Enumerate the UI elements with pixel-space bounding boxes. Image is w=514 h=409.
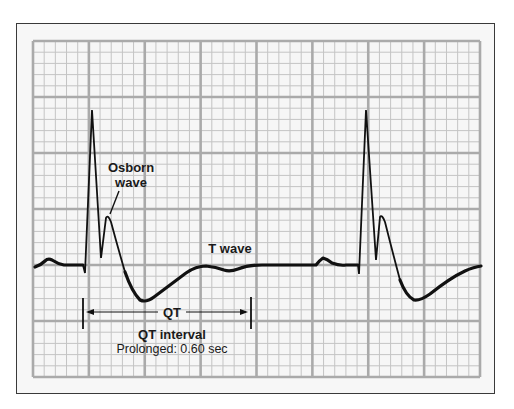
osborn-label-line1: Osborn bbox=[108, 160, 154, 175]
qt-short-label: QT bbox=[163, 305, 181, 320]
osborn-label-line2: wave bbox=[114, 175, 147, 190]
qt-prolonged-label: Prolonged: 0.60 sec bbox=[116, 342, 227, 356]
t-wave-label: T wave bbox=[208, 241, 251, 256]
qt-interval-label: QT interval bbox=[138, 327, 206, 342]
ecg-diagram: Osborn wave T wave QT QT interval Prolon… bbox=[0, 0, 514, 409]
